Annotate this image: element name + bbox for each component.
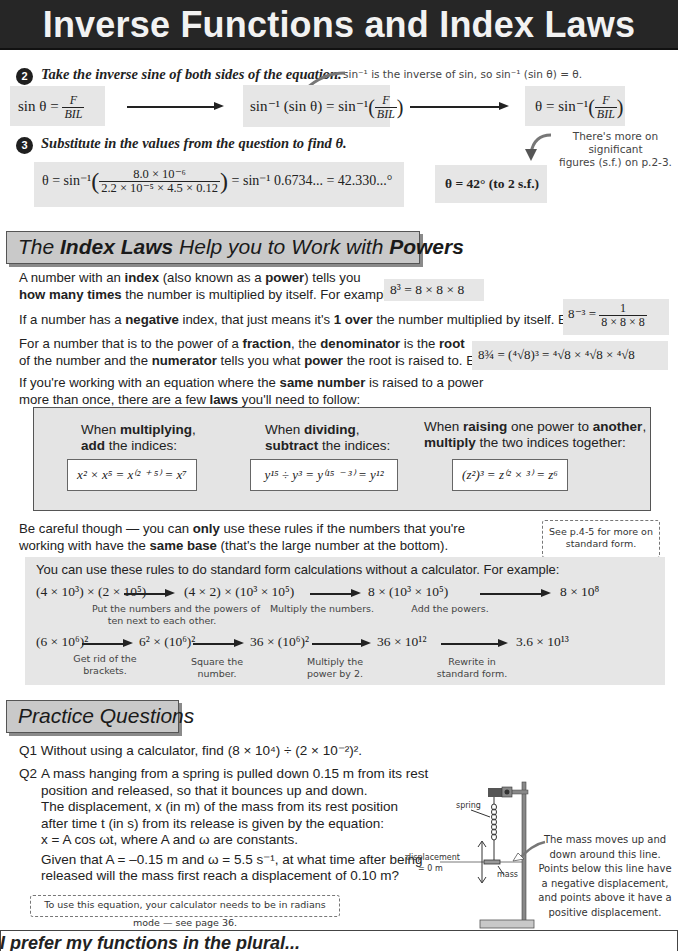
law-power-label: When raising one power to another, multi…	[424, 419, 646, 451]
note-line: and points above it have a	[532, 891, 678, 906]
paragraph-negative: If a number has a negative index, that j…	[19, 311, 582, 328]
example-2-denominator: 8 × 8 × 8	[599, 316, 647, 329]
question-2: A mass hanging from a spring is pulled d…	[41, 766, 428, 885]
text: same base	[149, 538, 216, 553]
text: (also known as a	[159, 270, 265, 285]
text: (that's the large number at the bottom).	[217, 538, 448, 553]
eq2: sin⁻¹ (sin θ) = sin⁻¹(FBIL)	[250, 94, 404, 120]
arrow-head-icon	[351, 589, 361, 597]
example-2-numerator: 1	[599, 302, 647, 316]
law-divide-label: When dividing, subtract the indices:	[265, 422, 390, 454]
step-3-equation: θ = sin⁻¹(8.0 × 10⁻⁶2.2 × 10⁻⁵ × 4.5 × 0…	[42, 168, 392, 195]
text: dividing	[304, 422, 356, 437]
text: same number	[280, 375, 366, 390]
text: the root is raised to. E.g.	[343, 353, 490, 368]
note-line: The mass moves up and	[532, 833, 678, 848]
displacement-label: displacement	[406, 853, 460, 862]
footer-text: I prefer my functions in the plural...	[0, 933, 300, 951]
text: multiply	[424, 435, 476, 450]
question-label: Q1	[19, 743, 37, 758]
sf-arrow	[193, 643, 235, 645]
text: index, that just means it's	[179, 312, 334, 327]
paragraph-careful-line-1: Be careful though — you can only use the…	[19, 520, 465, 537]
arrow-1-head-icon	[214, 102, 224, 110]
sf-arrow	[82, 643, 124, 645]
text: ) tells you	[304, 270, 360, 285]
sf-row1-expr-3: 8 × (10³ × 10⁵)	[368, 584, 448, 600]
eq3-numerator: F	[595, 94, 617, 108]
law-divide-formula: y¹⁵ ÷ y³ = y⁽¹⁵ ⁻ ³⁾ = y¹²	[250, 459, 398, 491]
text: For a number that is to the power of a	[19, 336, 243, 351]
text: power	[304, 353, 343, 368]
sf-row2-note-4: Rewrite in standard form.	[432, 656, 512, 680]
text: power	[265, 270, 304, 285]
note-line: brackets.	[70, 665, 140, 677]
law-multiply-label: When multiplying, add the indices:	[81, 422, 196, 454]
law-multiply-formula: x² × x⁵ = x⁽² ⁺ ⁵⁾ = x⁷	[67, 459, 197, 491]
text: ,	[356, 422, 360, 437]
note-line: Square the	[182, 656, 252, 668]
sf-row1-expr-4: 8 × 10⁸	[560, 584, 599, 600]
eq1-numerator: F	[62, 94, 84, 108]
text: A number with an	[19, 270, 125, 285]
question-1: Q1 Without using a calculator, find (8 ×…	[19, 743, 362, 760]
arrow-head-icon	[541, 589, 551, 597]
text: the two indices together:	[476, 435, 626, 450]
standard-form-intro: You can use these rules to do standard f…	[36, 562, 559, 577]
text: When	[424, 419, 463, 434]
sf-row2-expr-4: 36 × 10¹²	[377, 634, 426, 650]
text: When	[265, 422, 304, 437]
heading-part: Index Laws	[60, 235, 173, 258]
arrow-head-icon	[234, 639, 244, 647]
question-line: The displacement, x (in m) of the mass f…	[41, 799, 428, 816]
step-3-badge: 3	[16, 137, 33, 154]
text: only	[193, 521, 220, 536]
text: of the number and the	[19, 353, 152, 368]
note-line: standard form.	[432, 668, 512, 680]
step-3-instruction: Substitute in the values from the questi…	[41, 135, 347, 152]
sf-row2-expr-3: 36 × (10⁶)²	[250, 634, 309, 650]
paragraph-index-line-1: A number with an index (also known as a …	[19, 269, 361, 286]
sf-row1-expr-2: (4 × 2) × (10³ × 10⁵)	[184, 584, 294, 600]
tip-line-2: standard form.	[543, 538, 659, 550]
arrow-2-head-icon	[499, 102, 509, 110]
text: negative	[125, 312, 179, 327]
eq2-denominator: BIL	[375, 108, 397, 121]
law-power-formula: (z²)³ = z⁽² × ³⁾ = z⁶	[452, 459, 568, 491]
note-line: positive displacement.	[532, 906, 678, 921]
arrow-1	[127, 106, 215, 108]
text: laws	[210, 392, 239, 407]
index-laws-heading: The Index Laws Help you to Work with Pow…	[18, 235, 464, 259]
text: index	[125, 270, 159, 285]
paragraph-fraction-line-2: of the number and the numerator tells yo…	[19, 352, 490, 369]
text: , the	[291, 336, 320, 351]
sf-row2-note-3: Multiply the power by 2.	[300, 656, 370, 680]
text: the indices:	[105, 438, 177, 453]
sf-row1-note-2: Multiply the numbers.	[262, 603, 382, 615]
note-line: Points below this line have	[532, 862, 678, 877]
practice-heading: Practice Questions	[18, 704, 194, 728]
question-line: released will the mass first reach a dis…	[41, 868, 428, 885]
step-3-numerator: 8.0 × 10⁻⁶	[99, 168, 220, 182]
arrow-head-icon	[165, 589, 175, 597]
sf-row2-expr-1: (6 × 10⁶)²	[36, 634, 88, 650]
text: If you're working with an equation where…	[19, 375, 280, 390]
radians-tip: To use this equation, your calculator ne…	[30, 895, 340, 917]
question-line: x = A cos ωt, where A and ω are constant…	[41, 832, 428, 849]
text: is the	[400, 336, 439, 351]
step-2-badge: 2	[16, 68, 33, 85]
question-line: A mass hanging from a spring is pulled d…	[41, 766, 428, 783]
text: one power to	[507, 419, 593, 434]
heading-part: Help you to Work with	[173, 235, 389, 258]
step-2-note: sin⁻¹ is the inverse of sin, so sin⁻¹ (s…	[343, 68, 582, 80]
page-title: Inverse Functions and Index Laws	[0, 4, 678, 46]
text: working with have the	[19, 538, 149, 553]
sf-row2-expr-2: 6² × (10⁶)²	[139, 634, 195, 650]
text: denominator	[320, 336, 400, 351]
text: ,	[192, 422, 196, 437]
step-3-eq-right: = sin⁻¹ 0.6734... = 42.330...°	[232, 173, 393, 188]
arrow-head-icon	[498, 639, 508, 647]
paragraph-fraction-line-1: For a number that is to the power of a f…	[19, 335, 465, 352]
sf-row2-note-1: Get rid of the brackets.	[70, 653, 140, 677]
tip-line-1: See p.4-5 for more on	[543, 526, 659, 538]
